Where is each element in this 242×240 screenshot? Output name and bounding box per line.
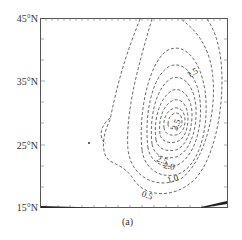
x-ticks: [46, 19, 220, 208]
contour-label-1.5: 1.5: [185, 65, 200, 80]
contour-label-3.5: 3.5: [169, 117, 182, 131]
plot-frame: [41, 19, 228, 208]
contour-label-1.0: 1.0: [166, 172, 180, 185]
contour-label-2.0: 2.0: [163, 160, 176, 172]
contour-plot: 1.5 3.5 2.5 2.0 1.0 0.5: [0, 0, 242, 240]
y-ticks: [41, 39, 228, 187]
figure-caption: (a): [122, 216, 133, 227]
contour-label-0.5: 0.5: [140, 188, 154, 201]
island-dot: [88, 142, 90, 144]
contour-lines: [101, 19, 222, 194]
